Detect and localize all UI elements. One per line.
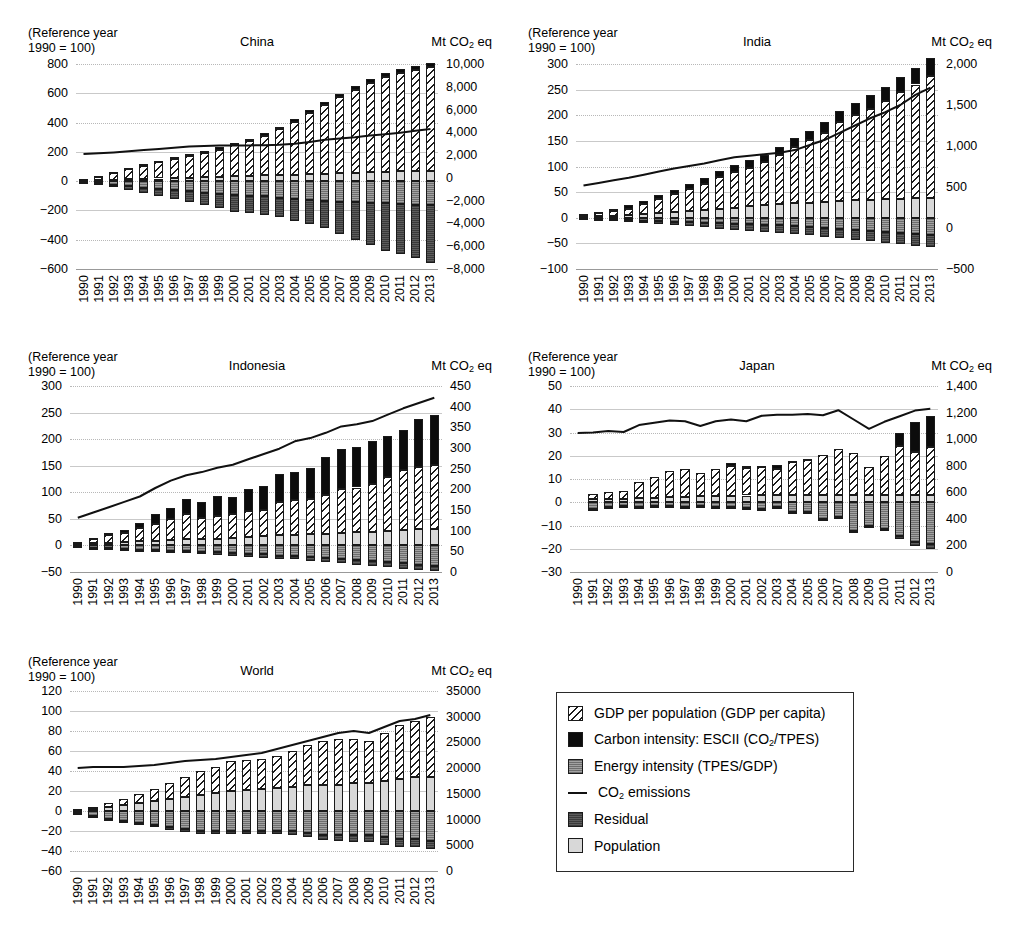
y-tick-right: 200	[450, 483, 471, 496]
y-tick-right: 25000	[446, 736, 481, 749]
y-tick-left: 30	[548, 426, 562, 439]
swatch-icon-residual	[568, 812, 583, 827]
x-tick-label: 1991	[86, 578, 100, 606]
x-tick-label: 2013	[427, 578, 441, 606]
y-tick-left: 0	[55, 805, 62, 818]
y-axis-right-india: 2,0001,5001,0005000−500	[946, 64, 1000, 269]
swatch-icon-energy-intensity	[568, 759, 583, 774]
y-tick-right: 600	[946, 486, 967, 499]
y-tick-right: −6,000	[446, 240, 485, 253]
x-tick-label: 2007	[833, 275, 847, 303]
x-axis-line	[576, 269, 938, 270]
x-tick-label: 2008	[848, 275, 862, 303]
y-axis-right-world: 35000300002500020000150001000050000	[446, 691, 500, 871]
y-tick-right: 1,000	[946, 433, 977, 446]
x-tick-label: 2010	[878, 275, 892, 303]
unit-label: Mt CO2 eq	[931, 358, 992, 373]
x-tick-label: 1991	[92, 275, 106, 303]
co2-emissions-line	[70, 386, 442, 572]
x-tick-label: 2005	[301, 877, 315, 905]
y-axis-left-indonesia: 300250200150100500−50	[14, 386, 62, 572]
x-tick-label: 2004	[788, 275, 802, 303]
x-tick-label: 1993	[622, 275, 636, 303]
y-tick-left: −40	[41, 845, 62, 858]
co2-emissions-line	[70, 691, 438, 871]
chart-panel-japan: (Reference year 1990 = 100)JapanMt CO2 e…	[514, 350, 1000, 645]
y-tick-right: 350	[450, 421, 471, 434]
x-tick-label: 2007	[831, 578, 845, 606]
chart-title-world: World	[14, 663, 500, 678]
x-tick-label: 1992	[601, 578, 615, 606]
legend-item-carbon-intensity[interactable]: Carbon intensity: ESCII (CO2/TPES)	[557, 727, 853, 754]
y-tick-right: 50	[450, 545, 464, 558]
y-tick-right: 2,000	[446, 149, 477, 162]
unit-label: Mt CO2 eq	[431, 663, 492, 678]
y-tick-left: 300	[41, 380, 62, 393]
x-tick-label: 2010	[377, 877, 391, 905]
x-axis-line	[76, 269, 438, 270]
y-tick-left: 40	[548, 403, 562, 416]
y-tick-right: 10,000	[446, 58, 484, 71]
x-tick-label: 1991	[86, 877, 100, 905]
y-tick-left: −50	[41, 566, 62, 579]
legend-item-energy-intensity[interactable]: Energy intensity (TPES/GDP)	[557, 753, 853, 780]
y-tick-right: 1,000	[946, 140, 977, 153]
unit-axis-label: Mt CO2 eq	[931, 34, 992, 50]
legend-item-population[interactable]: Population	[557, 833, 853, 860]
x-tick-label: 1996	[663, 578, 677, 606]
x-tick-label: 2002	[758, 275, 772, 303]
y-tick-right: 0	[446, 172, 453, 185]
x-tick-label: 2002	[258, 275, 272, 303]
x-tick-label: 2010	[378, 275, 392, 303]
y-tick-right: 400	[946, 513, 967, 526]
y-tick-right: 30000	[446, 710, 481, 723]
x-tick-label: 2004	[288, 275, 302, 303]
unit-axis-label: Mt CO2 eq	[431, 34, 492, 50]
chart-legend: GDP per population (GDP per capita)Carbo…	[556, 692, 854, 872]
x-axis-labels-japan: 1990199119921993199419951996199719981999…	[570, 578, 938, 640]
x-tick-label: 2005	[803, 275, 817, 303]
y-tick-left: 250	[41, 406, 62, 419]
co2-emissions-line	[576, 64, 938, 269]
legend-label: Carbon intensity: ESCII (CO2/TPES)	[594, 731, 819, 748]
x-tick-label: 1998	[693, 578, 707, 606]
y-tick-left: 300	[547, 58, 568, 71]
x-tick-label: 2000	[727, 275, 741, 303]
y-tick-right: −500	[946, 263, 974, 276]
unit-label: Mt CO2 eq	[431, 34, 492, 49]
swatch-icon-population	[568, 838, 583, 853]
chart-panel-china: (Reference year 1990 = 100)ChinaMt CO2 e…	[14, 26, 500, 346]
y-tick-left: −200	[40, 204, 68, 217]
legend-item-gdp-per-capita[interactable]: GDP per population (GDP per capita)	[557, 700, 853, 727]
x-tick-label: 2002	[257, 578, 271, 606]
x-tick-label: 1996	[163, 877, 177, 905]
x-tick-label: 1997	[678, 578, 692, 606]
x-tick-label: 1992	[101, 877, 115, 905]
y-tick-right: 150	[450, 504, 471, 517]
y-tick-left: 0	[561, 212, 568, 225]
y-tick-right: 500	[946, 181, 967, 194]
x-tick-label: 2011	[393, 877, 407, 904]
x-tick-label: 2004	[785, 578, 799, 606]
legend-item-co2-emissions[interactable]: CO2 emissions	[557, 780, 853, 807]
swatch-icon-carbon-intensity	[568, 732, 583, 747]
x-tick-label: 1996	[667, 275, 681, 303]
y-axis-left-china: 8006004002000−200−400−600	[14, 64, 68, 269]
y-tick-left: 10	[548, 473, 562, 486]
x-tick-label: 1994	[632, 578, 646, 606]
legend-label: GDP per population (GDP per capita)	[594, 705, 825, 721]
x-tick-label: 2002	[755, 578, 769, 606]
legend-item-residual[interactable]: Residual	[557, 806, 853, 833]
x-tick-label: 1999	[712, 275, 726, 303]
plot-area-world	[70, 691, 438, 871]
chart-title-india: India	[514, 34, 1000, 49]
x-tick-label: 1990	[571, 578, 585, 606]
x-tick-label: 2006	[318, 275, 332, 303]
x-tick-label: 1991	[586, 578, 600, 606]
x-tick-label: 1998	[193, 877, 207, 905]
swatch-icon-gdp-per-capita	[568, 706, 583, 721]
x-tick-label: 2009	[863, 275, 877, 303]
x-tick-label: 2004	[285, 877, 299, 905]
x-tick-label: 2003	[273, 275, 287, 303]
x-tick-label: 2004	[288, 578, 302, 606]
